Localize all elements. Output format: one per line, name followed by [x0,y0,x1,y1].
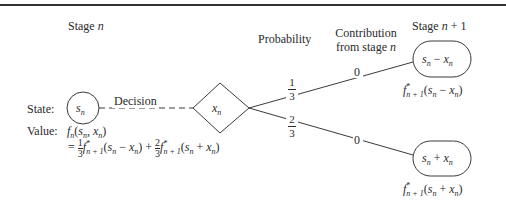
state-label: State: [27,102,54,116]
lower-next-state-label: sn + xn [422,151,453,170]
upper-next-state-label: sn − xn [422,52,453,71]
upper-branch-line [249,62,413,108]
header-stage-n-plus-1: Stage n + 1 [412,19,466,33]
decision-label: Decision [112,94,159,108]
value-formula-line2: = 13f*n + 1(sn − xn) + 23f*n + 1(sn + xn… [68,137,220,159]
header-contribution: Contributionfrom stage n [329,26,403,54]
probability-upper: 13 [287,77,297,102]
state-node-label: sn [76,101,85,120]
decision-node-label: xn [212,101,221,120]
header-stage-n: Stage n [68,19,104,33]
contribution-upper: 0 [354,65,360,79]
contribution-lower: 0 [354,133,360,147]
lower-branch-line [249,108,413,155]
value-label: Value: [27,124,58,138]
lower-next-value: f*n + 1(sn + xn) [403,179,463,200]
upper-next-value: f*n + 1(sn − xn) [403,80,463,102]
header-probability: Probability [258,32,311,46]
probability-lower: 23 [287,114,297,139]
